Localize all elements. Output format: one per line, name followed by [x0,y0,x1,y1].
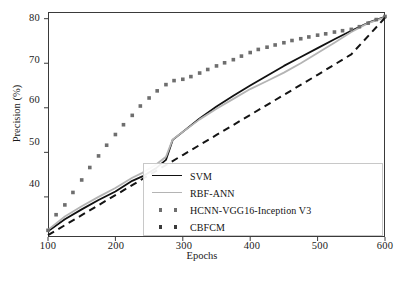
figure-precision-vs-epochs: 80 70 60 50 40 100 200 300 400 500 600 P… [0,0,404,281]
legend-item-hcnn-vgg16-inception-v3[interactable]: HCNN-VGG16-Inception V3 [150,202,382,218]
y-tick-label-80: 80 [18,12,40,23]
legend-key-svm [150,169,184,183]
legend-key-cbfcm [150,220,184,234]
legend-item-rbf-ann[interactable]: RBF-ANN [150,185,382,201]
legend-label-rbf-ann: RBF-ANN [190,188,235,199]
caption-cut-off: …………………………………………… [6,272,236,278]
legend-key-rbf-ann [150,186,184,200]
legend-key-hcnn-vgg16-inception-v3 [150,203,184,217]
legend-item-cbfcm[interactable]: CBFCM [150,219,382,235]
legend-label-cbfcm: CBFCM [190,222,225,233]
y-tick-label-40: 40 [18,178,40,189]
x-axis-label: Epochs [0,250,404,261]
y-tick-label-70: 70 [18,54,40,65]
legend-item-svm[interactable]: SVM [150,168,382,184]
chart-canvas [0,0,404,281]
legend-label-svm: SVM [190,171,212,182]
legend-label-hcnn-vgg16-inception-v3: HCNN-VGG16-Inception V3 [190,205,311,216]
y-axis-label: Precision (%) [11,69,22,159]
legend: SVM RBF-ANN HCNN-VGG16-Inception V3 [143,163,383,236]
